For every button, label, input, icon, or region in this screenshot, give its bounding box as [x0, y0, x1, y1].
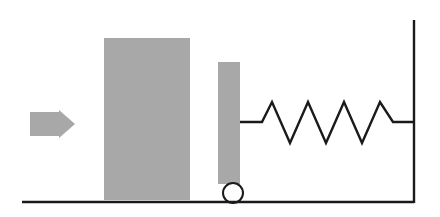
mechanics-diagram — [0, 0, 440, 217]
narrow-plate — [218, 62, 240, 184]
large-block — [104, 38, 190, 200]
physics-diagram-canvas — [0, 0, 440, 217]
